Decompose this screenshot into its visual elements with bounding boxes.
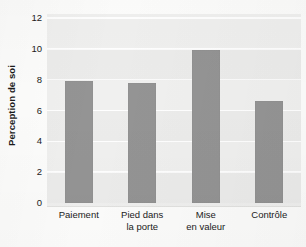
y-tick-label-12: 12	[31, 13, 42, 23]
x-axis-baseline	[47, 206, 301, 208]
bar-1	[65, 81, 93, 203]
bar-2	[128, 83, 156, 203]
x-tick-label-4: Contrôle	[238, 209, 302, 221]
x-tick-label-line: la porte	[111, 221, 175, 233]
x-tick-label-line: Contrôle	[238, 209, 302, 221]
x-tick-label-3: Miseen valeur	[174, 209, 238, 232]
grid-band	[47, 49, 301, 80]
y-tick-label-8: 8	[37, 75, 42, 85]
bar-chart-figure: Perception de soi 024681012 PaiementPied…	[0, 0, 306, 247]
y-tick-label-2: 2	[37, 167, 42, 177]
bar-3	[192, 50, 220, 203]
x-tick-label-1: Paiement	[47, 209, 111, 221]
bar-4	[255, 101, 283, 203]
x-tick-label-line: Pied dans	[111, 209, 175, 221]
x-tick-label-2: Pied dansla porte	[111, 209, 175, 232]
y-tick-label-4: 4	[37, 137, 42, 147]
x-tick-label-line: Paiement	[47, 209, 111, 221]
y-tick-label-10: 10	[31, 44, 42, 54]
y-axis-title: Perception de soi	[0, 0, 22, 210]
plot-area	[47, 14, 301, 207]
gridline-12	[47, 17, 301, 18]
y-axis-tick-labels: 024681012	[22, 0, 46, 247]
y-tick-label-6: 6	[37, 106, 42, 116]
x-tick-label-line: Mise	[174, 209, 238, 221]
y-tick-label-0: 0	[37, 198, 42, 208]
x-axis-tick-labels: PaiementPied dansla porteMiseen valeurCo…	[47, 209, 301, 247]
x-tick-label-line: en valeur	[174, 221, 238, 233]
y-axis-title-text: Perception de soi	[6, 65, 17, 146]
